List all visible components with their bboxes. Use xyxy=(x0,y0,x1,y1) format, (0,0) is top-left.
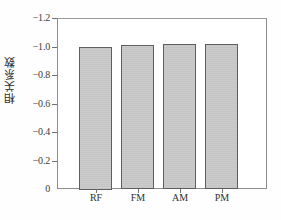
y-axis-tick-label: −0.6 xyxy=(4,99,50,109)
bar-chart: 相关系数 −1.2−1.0−0.8−0.6−0.4−0.20 RFFMAMPM xyxy=(0,0,281,220)
x-axis-tick-label: FM xyxy=(115,192,161,204)
y-axis-tick-label: −0.2 xyxy=(4,156,50,166)
x-axis-tick-label: AM xyxy=(157,192,203,204)
bar xyxy=(205,44,238,189)
y-axis-tick-label: −1.0 xyxy=(4,42,50,52)
bar xyxy=(121,45,154,189)
y-axis-tick-label: −0.8 xyxy=(4,70,50,80)
y-axis-labels: −1.2−1.0−0.8−0.6−0.4−0.20 xyxy=(0,0,50,220)
y-axis-tick-label: −0.4 xyxy=(4,127,50,137)
x-axis-tick-label: RF xyxy=(73,192,119,204)
bar xyxy=(79,47,112,190)
x-axis-tick-label: PM xyxy=(199,192,245,204)
bar xyxy=(163,44,196,189)
y-axis-tick-label: −1.2 xyxy=(4,13,50,23)
y-axis-tick-label: 0 xyxy=(4,184,50,194)
